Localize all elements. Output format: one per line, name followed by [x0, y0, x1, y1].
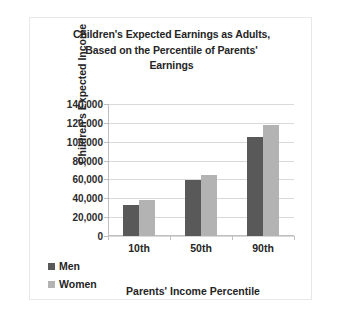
x-tick-mark: [170, 236, 171, 240]
bars-layer: [108, 104, 294, 236]
x-axis-title: Parents' Income Percentile: [88, 285, 298, 297]
y-tick-label: 120,000: [67, 117, 103, 128]
x-tick-mark: [232, 236, 233, 240]
x-tick-mark: [108, 236, 109, 240]
x-tick-label-10th: 10th: [128, 242, 150, 254]
y-tick-label: 20,000: [72, 212, 103, 223]
bar-men-10th[interactable]: [123, 205, 139, 236]
bar-men-50th[interactable]: [185, 180, 201, 236]
gridline: [108, 236, 294, 237]
plot-area: 140,000120,000100,00080,00060,00040,0002…: [108, 104, 294, 236]
legend-label-women: Women: [59, 278, 97, 290]
bar-group-50th: [170, 104, 232, 236]
bar-group-10th: [108, 104, 170, 236]
y-tick-label: 60,000: [72, 174, 103, 185]
bar-group-90th: [232, 104, 294, 236]
bar-women-10th[interactable]: [139, 200, 155, 236]
bar-men-90th[interactable]: [247, 137, 263, 236]
legend-swatch-women-icon: [48, 281, 55, 288]
legend-item-men[interactable]: Men: [48, 257, 106, 275]
y-tick-label: 80,000: [72, 155, 103, 166]
legend-swatch-men-icon: [48, 263, 55, 270]
y-tick-label: 140,000: [67, 99, 103, 110]
bar-women-50th[interactable]: [201, 175, 217, 236]
y-tick-label: 40,000: [72, 193, 103, 204]
x-tick-label-90th: 90th: [252, 242, 274, 254]
chart-frame: Children's Expected Earnings as Adults, …: [29, 17, 312, 300]
chart-legend: Men Women: [48, 257, 106, 293]
bar-women-90th[interactable]: [263, 125, 279, 236]
x-tick-mark: [294, 236, 295, 240]
x-tick-label-50th: 50th: [190, 242, 212, 254]
legend-item-women[interactable]: Women: [48, 275, 106, 293]
y-tick-label: 0: [97, 231, 103, 242]
legend-label-men: Men: [59, 260, 80, 272]
y-tick-label: 100,000: [67, 136, 103, 147]
